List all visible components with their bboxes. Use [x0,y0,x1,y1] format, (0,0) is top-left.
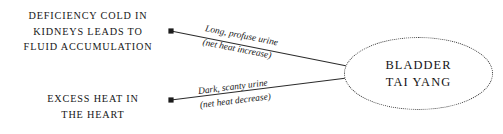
target-node-bladder-line-1: BLADDER [385,57,451,74]
target-node-bladder: BLADDER TAI YANG [344,37,493,110]
target-node-bladder-line-2: TAI YANG [386,74,452,91]
edge-endpoint-dot-upper [168,28,173,33]
diagram-canvas: DEFICIENCY COLD IN KIDNEYS LEADS TO FLUI… [0,0,503,134]
edge-endpoint-dot-lower [168,97,173,102]
